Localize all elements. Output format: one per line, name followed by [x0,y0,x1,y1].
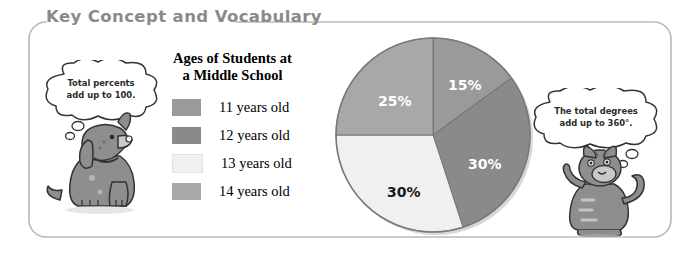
key-concept-panel: Key Concept and Vocabulary Total percent… [0,0,697,254]
legend-label-13: 13 years old [221,155,292,172]
cat-bubble-line2: add up to 360°. [560,118,633,128]
legend-label-14: 14 years old [219,183,290,200]
legend-swatch-13 [172,154,203,173]
legend-swatch-12 [172,127,201,144]
legend-swatch-14 [172,183,201,200]
legend-title-line1: Ages of Students at [173,50,292,66]
chart-legend: Ages of Students at a Middle School 11 y… [150,50,315,205]
legend-label-12: 12 years old [219,127,290,144]
cat-character: The total degrees add up to 360°. [528,88,676,242]
pie-label-14-years: 25% [378,93,412,109]
legend-label-11: 11 years old [219,99,289,116]
legend-title-line2: a Middle School [150,67,315,84]
legend-swatch-11 [172,99,201,116]
dog-thought-bubble: Total percents add up to 100. [46,60,156,120]
legend-title: Ages of Students at a Middle School [150,50,315,84]
panel-title: Key Concept and Vocabulary [46,7,322,26]
cat-thought-bubble: The total degrees add up to 360°. [534,88,656,148]
legend-rows: 11 years old12 years old13 years old14 y… [150,93,315,205]
legend-item-12-years: 12 years old [172,121,315,149]
legend-item-13-years: 13 years old [172,149,315,177]
dog-bubble-line2: add up to 100. [67,90,136,100]
dog-bubble-line1: Total percents [67,78,134,88]
pie-label-12-years: 30% [468,156,502,172]
pie-chart: 15%30%30%25% [330,32,536,238]
pie-label-13-years: 30% [387,184,421,200]
pie-slice-14-years[interactable] [336,38,433,135]
pie-label-11-years: 15% [448,77,482,93]
cat-bubble-line1: The total degrees [554,106,638,116]
legend-item-14-years: 14 years old [172,177,315,205]
pie-chart-svg [330,32,536,238]
legend-item-11-years: 11 years old [172,93,315,121]
